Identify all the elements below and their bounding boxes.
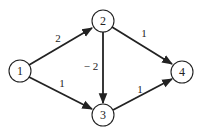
node-label-3: 3 xyxy=(100,108,106,122)
node-3: 3 xyxy=(92,104,114,126)
graph-diagram: 2 1 − 2 1 1 1 2 3 4 xyxy=(0,0,206,135)
node-label-2: 2 xyxy=(100,14,106,28)
edge-label-2-4: 1 xyxy=(141,27,147,39)
node-1: 1 xyxy=(9,60,31,82)
node-label-4: 4 xyxy=(179,65,185,79)
node-4: 4 xyxy=(171,61,193,83)
node-2: 2 xyxy=(92,10,114,32)
edge-label-3-4: 1 xyxy=(137,83,143,95)
edge-label-1-2: 2 xyxy=(55,32,61,44)
node-label-1: 1 xyxy=(17,64,23,78)
edge-label-1-3: 1 xyxy=(59,77,65,89)
edge-label-2-3: − 2 xyxy=(84,60,98,72)
